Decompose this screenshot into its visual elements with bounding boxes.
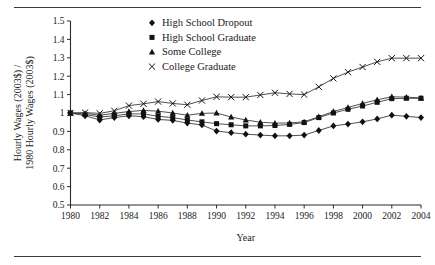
data-point-marker bbox=[316, 84, 322, 90]
data-point-marker bbox=[185, 117, 190, 122]
data-point-marker bbox=[243, 131, 249, 138]
data-point-marker bbox=[214, 128, 220, 135]
data-point-marker bbox=[199, 119, 204, 124]
data-point-marker bbox=[374, 115, 380, 122]
data-point-marker bbox=[243, 123, 248, 128]
legend-marker-triangle bbox=[149, 49, 155, 55]
y-tick-label: 0.5 bbox=[53, 200, 65, 210]
chart-legend: High School DropoutHigh School GraduateS… bbox=[149, 17, 256, 72]
x-tick-label: 1992 bbox=[236, 211, 255, 221]
x-axis-title: Year bbox=[237, 232, 256, 243]
x-tick-label: 1984 bbox=[119, 211, 138, 221]
data-point-marker bbox=[374, 59, 380, 65]
data-point-marker bbox=[214, 121, 219, 126]
data-point-marker bbox=[403, 113, 409, 120]
data-point-marker bbox=[199, 97, 205, 103]
figure-container: Hourly Wages (2003$) /1980 Hourly Wages … bbox=[0, 0, 435, 265]
x-axis-tick-labels: 1980198219841986198819901992199419961998… bbox=[61, 211, 431, 221]
data-series-group bbox=[67, 55, 424, 139]
legend-marker-cross bbox=[149, 64, 155, 70]
x-tick-label: 1982 bbox=[90, 211, 109, 221]
legend-item: High School Dropout bbox=[149, 17, 252, 28]
data-point-marker bbox=[170, 115, 175, 120]
legend-label: Some College bbox=[162, 46, 222, 57]
x-tick-label: 1996 bbox=[295, 211, 314, 221]
x-tick-label: 2002 bbox=[382, 211, 401, 221]
data-point-marker bbox=[156, 114, 161, 119]
axis-lines bbox=[71, 21, 422, 205]
x-tick-label: 2000 bbox=[353, 211, 372, 221]
legend-item: College Graduate bbox=[149, 61, 236, 72]
figure-top-rule bbox=[14, 7, 421, 8]
data-point-marker bbox=[287, 132, 293, 139]
y-axis-title-line2: 1980 Hourly Wages (2003$) bbox=[24, 56, 36, 170]
y-tick-label: 1 bbox=[60, 108, 65, 118]
line-chart: Hourly Wages (2003$) /1980 Hourly Wages … bbox=[0, 0, 435, 265]
x-tick-label: 1998 bbox=[324, 211, 343, 221]
y-tick-label: 0.6 bbox=[53, 182, 65, 192]
legend-marker-square bbox=[150, 35, 155, 40]
data-point-marker bbox=[345, 69, 351, 75]
x-tick-label: 1990 bbox=[207, 211, 226, 221]
legend-item: Some College bbox=[149, 46, 222, 57]
data-point-marker bbox=[316, 127, 322, 134]
data-point-marker bbox=[330, 75, 336, 81]
y-tick-label: 0.9 bbox=[53, 127, 65, 137]
y-axis-tick-labels: 0.50.60.70.80.911.11.21.31.41.5 bbox=[53, 16, 65, 210]
data-point-marker bbox=[418, 114, 424, 121]
data-point-marker bbox=[330, 122, 336, 129]
data-point-marker bbox=[360, 118, 366, 125]
x-tick-label: 1994 bbox=[265, 211, 284, 221]
x-tick-label: 1986 bbox=[149, 211, 168, 221]
legend-marker-diamond bbox=[149, 19, 155, 26]
data-point-marker bbox=[228, 129, 234, 136]
data-point-marker bbox=[301, 132, 307, 139]
y-tick-label: 0.7 bbox=[53, 164, 65, 174]
series-markers bbox=[67, 94, 424, 126]
series-line bbox=[71, 58, 422, 113]
y-tick-label: 1.3 bbox=[53, 53, 65, 63]
x-tick-label: 1988 bbox=[178, 211, 197, 221]
data-point-marker bbox=[229, 122, 234, 127]
series-college-graduate bbox=[67, 55, 424, 116]
legend-label: College Graduate bbox=[162, 61, 236, 72]
y-tick-label: 1.1 bbox=[53, 90, 65, 100]
data-point-marker bbox=[140, 107, 146, 113]
data-point-marker bbox=[257, 132, 263, 139]
legend-label: High School Dropout bbox=[162, 17, 252, 28]
y-tick-label: 1.4 bbox=[53, 35, 65, 45]
series-some-college bbox=[67, 94, 424, 126]
legend-item: High School Graduate bbox=[150, 32, 257, 43]
data-point-marker bbox=[389, 112, 395, 119]
figure-bottom-rule bbox=[14, 256, 421, 257]
y-tick-label: 1.5 bbox=[53, 16, 65, 26]
data-point-marker bbox=[345, 121, 351, 128]
x-axis-title-text: Year bbox=[237, 232, 256, 243]
x-tick-label: 2004 bbox=[412, 211, 431, 221]
y-axis-title-line1: Hourly Wages (2003$) / bbox=[12, 65, 24, 162]
x-tick-label: 1980 bbox=[61, 211, 80, 221]
data-point-marker bbox=[359, 64, 365, 70]
data-point-marker bbox=[272, 132, 278, 139]
y-axis-title: Hourly Wages (2003$) /1980 Hourly Wages … bbox=[12, 56, 36, 170]
y-tick-label: 1.2 bbox=[53, 72, 65, 82]
y-tick-label: 0.8 bbox=[53, 145, 65, 155]
legend-label: High School Graduate bbox=[162, 32, 256, 43]
